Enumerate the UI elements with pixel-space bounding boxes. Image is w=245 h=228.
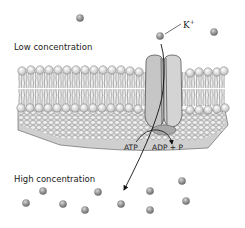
low-concentration-label: Low concentration xyxy=(14,42,92,52)
atp-label: ATP xyxy=(124,143,138,152)
high-concentration-label: High concentration xyxy=(14,174,95,184)
ions-low-concentration xyxy=(76,14,218,40)
lipid-tails-lower xyxy=(18,89,225,106)
potassium-ion-label: K+ xyxy=(183,18,195,30)
k-label-leader xyxy=(165,24,181,34)
adp-label: ADP + P xyxy=(152,143,183,152)
membrane-diagram xyxy=(0,0,245,228)
diagram-stage: Low concentration High concentration K+ … xyxy=(0,0,245,228)
ion-charge: + xyxy=(190,18,195,25)
ion-symbol: K xyxy=(183,20,190,30)
